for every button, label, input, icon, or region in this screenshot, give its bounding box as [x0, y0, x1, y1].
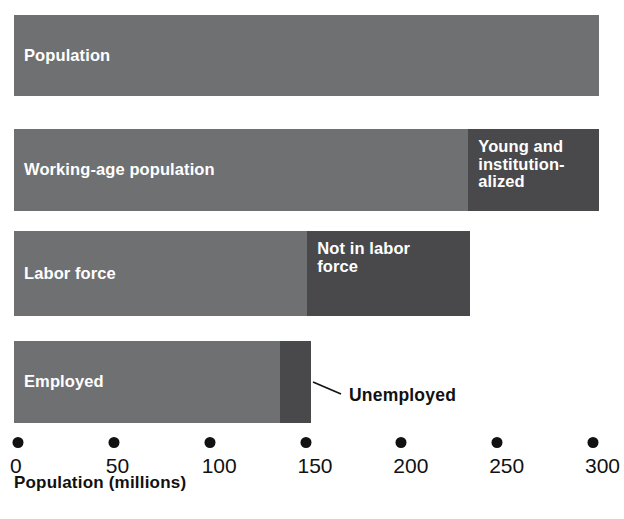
employed-bar-segment-0-label: Employed: [24, 373, 104, 391]
x-axis-tick-dot-300: [588, 437, 599, 448]
labor-force-stacked-bar-chart: PopulationWorking-age populationYoung an…: [0, 0, 624, 519]
x-axis-tick-dot-50: [108, 437, 119, 448]
x-axis-tick-dot-250: [492, 437, 503, 448]
labor-force-bar-segment-0: Labor force: [14, 231, 307, 316]
x-axis-tick-label-250: 250: [489, 455, 524, 476]
population-bar-segment-0: Population: [14, 15, 599, 96]
x-axis-tick-dot-150: [300, 437, 311, 448]
working-age-bar: Working-age populationYoung and institut…: [0, 129, 624, 211]
working-age-bar-segment-0-label: Working-age population: [24, 161, 215, 179]
labor-force-bar: Labor forceNot in labor force: [0, 231, 624, 316]
labor-force-bar-segment-1-label: Not in labor force: [317, 240, 410, 275]
x-axis-tick-dot-100: [204, 437, 215, 448]
working-age-bar-segment-0: Working-age population: [14, 129, 468, 211]
x-axis-title: Population (millions): [14, 473, 186, 493]
x-axis-tick-label-300: 300: [585, 455, 620, 476]
x-axis-tick-dot-200: [396, 437, 407, 448]
employed-bar-segment-0: Employed: [14, 341, 280, 423]
labor-force-bar-segment-1: Not in labor force: [307, 231, 470, 316]
employed-bar: Employed: [0, 341, 624, 423]
x-axis-tick-label-100: 100: [202, 455, 237, 476]
population-bar: Population: [0, 15, 624, 96]
employed-bar-segment-1: [280, 341, 311, 423]
working-age-bar-segment-1: Young and institution- alized: [468, 129, 598, 211]
population-bar-segment-0-label: Population: [24, 47, 110, 65]
x-axis-tick-label-200: 200: [393, 455, 428, 476]
labor-force-bar-segment-0-label: Labor force: [24, 265, 116, 283]
x-axis-tick-label-150: 150: [298, 455, 333, 476]
working-age-bar-segment-1-label: Young and institution- alized: [478, 138, 564, 191]
x-axis-tick-dot-0: [13, 437, 24, 448]
unemployed-callout-label: Unemployed: [349, 385, 456, 406]
